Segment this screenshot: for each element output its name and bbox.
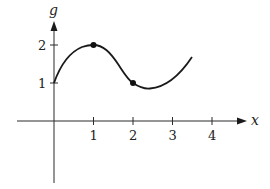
x-tick-label-1: 1 (90, 128, 98, 143)
y-tick-label-2: 2 (38, 38, 46, 53)
x-axis-arrow-icon (237, 118, 247, 125)
y-axis-arrow-icon (51, 21, 58, 31)
point-2-1 (130, 80, 136, 86)
x-axis-label: x (251, 112, 259, 128)
x-tick-label-4: 4 (208, 128, 216, 143)
x-tick-label-2: 2 (129, 128, 137, 143)
g-curve (54, 45, 192, 89)
chart-svg: x g 1 2 3 4 1 2 (0, 0, 270, 189)
y-axis-label: g (49, 2, 58, 18)
y-tick-label-1: 1 (38, 76, 46, 91)
point-1-2 (91, 42, 97, 48)
y-ticks: 1 2 (38, 38, 58, 91)
x-tick-label-3: 3 (169, 128, 177, 143)
chart-figure: x g 1 2 3 4 1 2 (0, 0, 270, 189)
